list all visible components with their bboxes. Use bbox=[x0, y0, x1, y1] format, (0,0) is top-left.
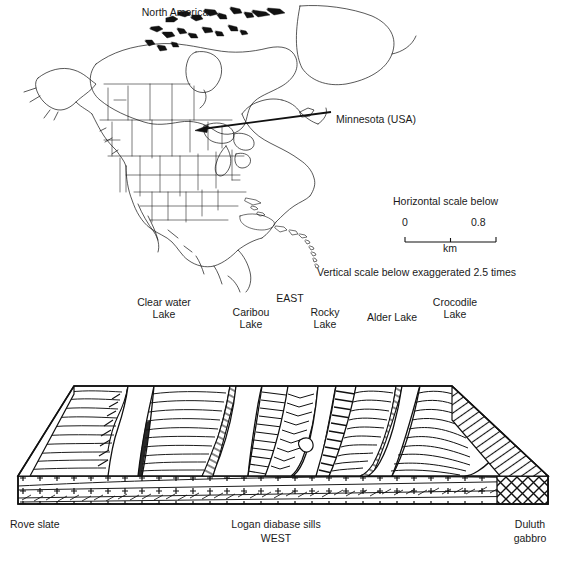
vertical-exaggeration-note: Vertical scale below exaggerated 2.5 tim… bbox=[317, 266, 516, 278]
minnesota-annotation-label: Minnesota (USA) bbox=[336, 113, 416, 125]
lake-label-clear-water-line1: Clear water bbox=[137, 296, 191, 308]
direction-label-west: WEST bbox=[261, 532, 291, 544]
lake-label-clear-water-line2: Lake bbox=[153, 308, 176, 320]
unit-label-rove-slate: Rove slate bbox=[10, 518, 60, 530]
north-america-locator-map bbox=[0, 0, 569, 300]
scale-min-label: 0 bbox=[402, 216, 408, 228]
lake-label-crocodile-line1: Crocodile bbox=[433, 296, 477, 308]
unit-label-duluth-line1: Duluth bbox=[515, 518, 545, 530]
scale-max-label: 0.8 bbox=[471, 216, 486, 228]
block-diagram bbox=[0, 290, 569, 530]
map-title: North America bbox=[142, 6, 209, 18]
unit-label-duluth-line2: gabbro bbox=[514, 532, 547, 544]
lake-label-caribou-line1: Caribou bbox=[233, 306, 270, 318]
unit-label-logan-diabase-sills: Logan diabase sills bbox=[231, 518, 320, 530]
lake-label-rocky-line1: Rocky bbox=[310, 306, 339, 318]
figure-root: North America Minnesota (USA) Horizontal… bbox=[0, 0, 569, 562]
minnesota-pointer-arrow bbox=[195, 112, 331, 133]
scale-unit-label: km bbox=[443, 242, 457, 254]
ridge-and-trough-terrain bbox=[18, 386, 548, 476]
horizontal-scale-heading: Horizontal scale below bbox=[393, 195, 498, 207]
lake-label-crocodile-line2: Lake bbox=[444, 308, 467, 320]
lake-label-rocky-line2: Lake bbox=[314, 318, 337, 330]
basement-slab bbox=[18, 476, 548, 504]
direction-label-east: EAST bbox=[276, 292, 303, 304]
lake-label-caribou-line2: Lake bbox=[240, 318, 263, 330]
lake-label-alder: Alder Lake bbox=[367, 311, 417, 323]
